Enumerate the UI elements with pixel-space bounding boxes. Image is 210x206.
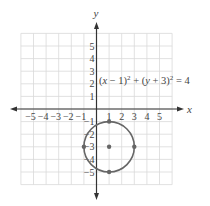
x-tick-label: −2 xyxy=(63,111,74,122)
x-tick-label: −5 xyxy=(25,111,36,122)
y-tick-label: 3 xyxy=(90,66,95,77)
x-axis-right-arrow-icon xyxy=(177,107,184,112)
x-tick-label: −3 xyxy=(50,111,61,122)
y-axis-up-arrow-icon xyxy=(94,22,99,29)
x-tick-label: 3 xyxy=(132,111,137,122)
y-tick-label: −1 xyxy=(84,116,95,127)
y-tick-label: −5 xyxy=(84,167,95,178)
y-tick-label: 5 xyxy=(90,41,95,52)
data-point xyxy=(107,170,111,174)
y-tick-label: 2 xyxy=(90,78,95,89)
data-point xyxy=(107,145,111,149)
coordinate-plane: −5−4−3−2−11234554321−1−2−3−4−5 xy(x − 1)… xyxy=(0,0,210,206)
x-axis-left-arrow-icon xyxy=(10,107,17,112)
data-point xyxy=(82,145,86,149)
axis-labels: xy(x − 1)2 + (y + 3)2 = 4 xyxy=(93,7,193,115)
x-axis-label: x xyxy=(186,103,192,115)
y-tick-label: 1 xyxy=(90,91,95,102)
x-tick-label: 4 xyxy=(144,111,149,122)
y-axis-label: y xyxy=(93,7,99,19)
data-point xyxy=(132,145,136,149)
data-point xyxy=(107,119,111,123)
y-axis-down-arrow-icon xyxy=(94,193,99,200)
equation-annotation: (x − 1)2 + (y + 3)2 = 4 xyxy=(99,74,191,87)
circle-graph: −5−4−3−2−11234554321−1−2−3−4−5 xy(x − 1)… xyxy=(0,0,210,206)
x-tick-label: −4 xyxy=(38,111,49,122)
x-tick-label: 5 xyxy=(157,111,162,122)
y-tick-label: 4 xyxy=(90,53,95,64)
x-tick-label: 2 xyxy=(119,111,124,122)
